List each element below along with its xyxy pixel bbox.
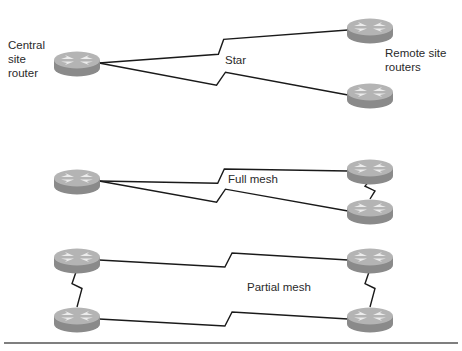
partial-mesh-router-left-top-icon bbox=[54, 249, 100, 274]
partial-mesh-router-right-top-icon bbox=[347, 249, 393, 274]
full-mesh-serial-link-left-to-right-bottom bbox=[99, 181, 348, 211]
star-label: Star bbox=[225, 53, 246, 67]
partial-mesh-serial-link-left-bottom-to-right-bottom bbox=[99, 312, 348, 326]
full-mesh-router-right-top-icon bbox=[347, 160, 393, 185]
label-line: site bbox=[8, 52, 45, 66]
routers-layer bbox=[54, 19, 393, 333]
partial-mesh-serial-link-right-top-to-right-bottom bbox=[365, 269, 375, 307]
star-router-remote-bottom-icon bbox=[347, 84, 393, 109]
partial-mesh-label: Partial mesh bbox=[247, 280, 311, 294]
partial-mesh-router-left-bottom-icon bbox=[54, 308, 100, 333]
star-router-remote-top-icon bbox=[347, 19, 393, 44]
partial-mesh-serial-link-left-top-to-left-bottom bbox=[72, 269, 82, 307]
star-router-central-icon bbox=[54, 52, 100, 77]
full-mesh-label: Full mesh bbox=[228, 172, 278, 186]
partial-mesh-serial-link-left-top-to-right-top bbox=[99, 253, 348, 267]
central-site-router-label: Central site router bbox=[8, 38, 45, 80]
star-serial-link-central-to-remote-top bbox=[99, 30, 348, 63]
partial-mesh-router-right-bottom-icon bbox=[347, 308, 393, 333]
label-line: router bbox=[8, 66, 45, 80]
full-mesh-router-right-bottom-icon bbox=[347, 200, 393, 225]
label-line: routers bbox=[385, 60, 446, 74]
label-line: Central bbox=[8, 38, 45, 52]
links-layer bbox=[72, 30, 375, 326]
remote-site-routers-label: Remote site routers bbox=[385, 46, 446, 74]
full-mesh-router-left-icon bbox=[54, 170, 100, 195]
full-mesh-serial-link-left-to-right-top bbox=[99, 169, 348, 183]
label-line: Remote site bbox=[385, 46, 446, 60]
star-serial-link-central-to-remote-bottom bbox=[99, 63, 348, 95]
